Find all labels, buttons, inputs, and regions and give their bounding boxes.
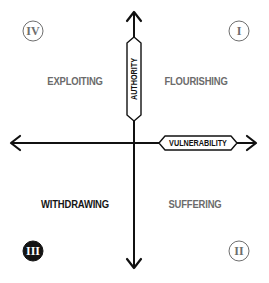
vulnerability-axis-label: VULNERABILITY: [169, 138, 227, 148]
authority-axis-label: AUTHORITY: [129, 58, 139, 100]
quadrant-ii-numeral: II: [229, 241, 250, 262]
quadrant-i-numeral: I: [229, 21, 250, 42]
quadrant-iii-label: WITHDRAWING: [41, 198, 109, 210]
quadrant-ii-label: SUFFERING: [168, 198, 221, 210]
quadrant-diagram: AUTHORITY VULNERABILITY IV I III II EXPL…: [0, 0, 269, 283]
axes: [0, 0, 269, 283]
quadrant-iii-numeral: III: [23, 241, 44, 262]
quadrant-i-label: FLOURISHING: [164, 75, 227, 87]
quadrant-iv-numeral: IV: [23, 21, 44, 42]
quadrant-iv-label: EXPLOITING: [47, 75, 102, 87]
